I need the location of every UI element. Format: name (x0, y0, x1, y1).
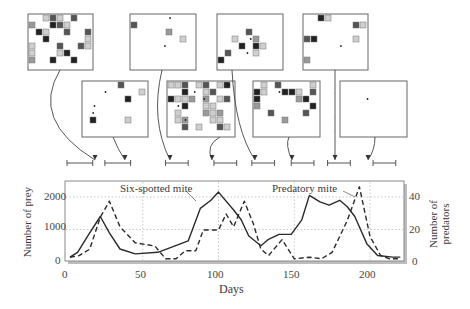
grid-cell (43, 15, 49, 21)
grid-cell (78, 43, 84, 49)
habitat-grid-panels-bottom (82, 81, 407, 137)
grid-cell (254, 103, 260, 109)
grid-cell (203, 89, 209, 95)
grid-cell (196, 124, 202, 130)
grid-cell (254, 89, 260, 95)
grid-cell (175, 96, 181, 102)
grid-cell (203, 103, 209, 109)
grid-cell (310, 103, 316, 109)
grid-cell (50, 57, 56, 63)
grid-cell (85, 36, 91, 42)
grid-cell (318, 15, 324, 21)
x-tick-0: 0 (62, 268, 68, 280)
grid-cell (175, 110, 181, 116)
panel-border (217, 14, 283, 70)
grid-cell (166, 29, 172, 35)
grid-cell (210, 89, 216, 95)
grid-cell (180, 36, 186, 42)
time-range-brackets (67, 160, 396, 166)
grid-cell (131, 22, 137, 28)
grid-cell (239, 43, 245, 49)
grid-cell (310, 89, 316, 95)
grid-cell (246, 29, 252, 35)
grid-cell (224, 124, 230, 130)
predator-series-label: Predatory mite (272, 182, 337, 194)
prey-series-label: Six-spotted mite (120, 182, 192, 194)
mite-dot (105, 91, 107, 93)
mite-dot (279, 91, 281, 93)
grid-cell (217, 96, 223, 102)
grid-cell (210, 110, 216, 116)
grid-cell (182, 103, 188, 109)
grid-cell (353, 22, 359, 28)
grid-cell (261, 82, 267, 88)
grid-cell (71, 15, 77, 21)
grid-cell (29, 22, 35, 28)
mite-dot (177, 105, 179, 107)
x-axis-title: Days (219, 282, 244, 297)
y-right-axis-title-line2: predators (440, 188, 451, 260)
arrowhead-icon (333, 155, 338, 160)
grid-cell (57, 43, 63, 49)
grid-cell (217, 117, 223, 123)
grid-cell (268, 110, 274, 116)
habitat-grid-panel (340, 81, 407, 137)
grid-cell (125, 96, 131, 102)
grid-cell (182, 82, 188, 88)
grid-cell (282, 117, 288, 123)
grid-cell (85, 43, 91, 49)
grid-cell (57, 50, 63, 56)
grid-cell (168, 96, 174, 102)
grid-cell (261, 89, 267, 95)
grid-cell (43, 36, 49, 42)
grid-cell (282, 89, 288, 95)
grid-cell (182, 89, 188, 95)
y-right-axis-title-line1: Number of (428, 188, 439, 260)
grid-cell (303, 96, 309, 102)
grid-cell (296, 89, 302, 95)
grid-cell (253, 36, 259, 42)
grid-cell (182, 96, 188, 102)
grid-cell (275, 82, 281, 88)
habitat-grid-panel (217, 14, 283, 70)
grid-cell (168, 82, 174, 88)
panel-border (82, 81, 148, 137)
arrowhead-icon (210, 155, 215, 160)
grid-cell (310, 82, 316, 88)
mite-dot (92, 112, 94, 114)
habitat-grid-panel (82, 81, 148, 137)
mite-dot (228, 84, 230, 86)
grid-cell (29, 50, 35, 56)
grid-cell (289, 89, 295, 95)
grid-cell (296, 96, 302, 102)
grid-cell (304, 36, 310, 42)
plot-area (65, 181, 404, 261)
grid-cell (43, 29, 49, 35)
grid-cell (64, 29, 70, 35)
grid-cell (57, 22, 63, 28)
grid-cell (217, 124, 223, 130)
grid-cell (175, 117, 181, 123)
mite-dot (94, 105, 96, 107)
grid-cell (118, 82, 124, 88)
grid-cell (182, 124, 188, 130)
grid-cell (203, 82, 209, 88)
grid-cell (175, 82, 181, 88)
grid-cell (125, 117, 131, 123)
grid-cell (353, 36, 359, 42)
y-right-tick-0: 0 (412, 255, 418, 267)
grid-cell (253, 50, 259, 56)
grid-cell (50, 22, 56, 28)
grid-cell (311, 36, 317, 42)
y-left-axis-title: Number of prey (22, 182, 33, 262)
grid-cell (217, 110, 223, 116)
y-left-tick-1000: 1000 (44, 220, 66, 232)
grid-cell (36, 29, 42, 35)
mite-dot (194, 91, 196, 93)
predator-prey-figure: 2000 1000 0 40 20 0 0 50 100 150 200 Day… (0, 0, 470, 309)
grid-cell (64, 50, 70, 56)
grid-cell (254, 96, 260, 102)
habitat-grid-panels-top (28, 14, 368, 70)
mite-dot (203, 98, 205, 100)
mite-dot (185, 119, 187, 121)
